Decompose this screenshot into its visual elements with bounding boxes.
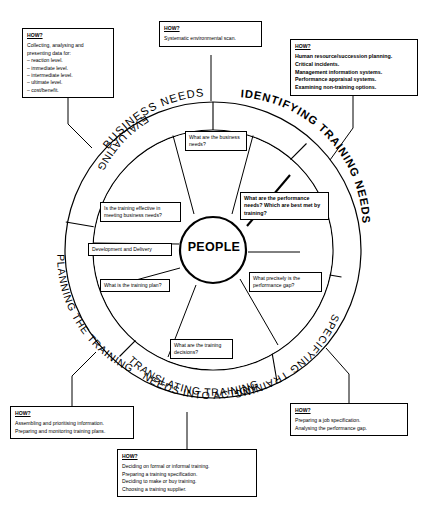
how-box-planning: HOW? Assembling and prioritising informa… (10, 406, 134, 439)
how-heading: HOW? (164, 25, 180, 32)
how-line: Performance appraisal systems. (295, 76, 413, 84)
how-heading: HOW? (15, 410, 31, 417)
how-line: Examining non-training options. (295, 84, 413, 92)
question-box-performance-gap: What precisely is the performance gap? (249, 272, 322, 292)
how-line: – immediate level. (27, 65, 109, 72)
diagram-canvas: BUSINESS NEEDS IDENTIFYING TRAINING NEED… (0, 0, 426, 513)
how-box-evaluating: HOW? Collecting, analysing and presentin… (22, 28, 114, 98)
how-heading: HOW? (27, 32, 43, 39)
question-box-effectiveness: Is the training effective in meeting bus… (100, 202, 181, 222)
how-line: Preparing a training specification. (122, 471, 252, 478)
how-line: Human resource/succession planning. (295, 53, 413, 61)
how-line: – cost/benefit. (27, 87, 109, 94)
label-box-development-delivery: Development and Delivery (88, 243, 172, 256)
how-box-translating: HOW? Deciding on formal or informal trai… (117, 449, 257, 497)
how-line: Preparing and monitoring training plans. (15, 428, 129, 435)
question-box-training-plan: What is the training plan? (100, 279, 170, 292)
how-heading: HOW? (122, 453, 138, 460)
how-box-business-needs: HOW? Systematic environmental scan. (159, 21, 262, 47)
people-centre-label: PEOPLE (178, 240, 250, 254)
how-line: Assembling and prioritising information. (15, 420, 129, 427)
how-box-specifying: HOW? Preparing a job specification. Anal… (290, 403, 408, 436)
question-box-business-needs: What are the business needs? (185, 131, 247, 151)
how-line: Deciding on formal or informal training. (122, 463, 252, 470)
how-line: Management information systems. (295, 69, 413, 77)
how-line: – intermediate level. (27, 72, 109, 79)
how-line: Analysing the performance gap. (295, 425, 403, 432)
how-line: Collecting, analysing and (27, 42, 109, 49)
how-line: – reaction level. (27, 57, 109, 64)
how-heading: HOW? (295, 43, 311, 50)
how-line: Critical incidents. (295, 61, 413, 69)
question-box-training-decisions: What are the training decisions? (170, 339, 233, 359)
how-line: – ultimate level. (27, 79, 109, 86)
how-line: Deciding to make or buy training. (122, 478, 252, 485)
how-line: presenting data for: (27, 50, 109, 57)
how-line: Preparing a job specification. (295, 417, 403, 424)
how-line: Systematic environmental scan. (164, 35, 257, 42)
question-box-performance-needs: What are the performance needs? Which ar… (240, 192, 329, 220)
how-heading: HOW? (295, 407, 311, 414)
how-line: Choosing a training supplier. (122, 486, 252, 493)
how-box-identifying: HOW? Human resource/succession planning.… (290, 39, 418, 96)
